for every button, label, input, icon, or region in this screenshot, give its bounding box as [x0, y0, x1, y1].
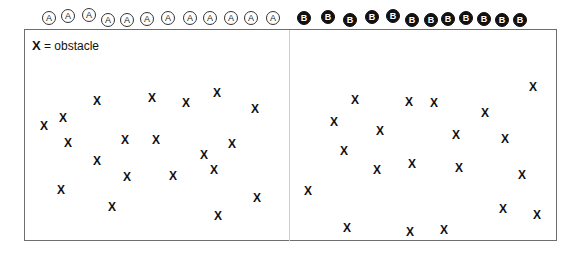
- agent-b-icon: B: [405, 13, 419, 27]
- obstacle-marker: X: [405, 96, 413, 108]
- arena-box: [24, 29, 557, 241]
- obstacle-marker: X: [455, 162, 463, 174]
- obstacle-marker: X: [213, 87, 221, 99]
- obstacle-marker: X: [452, 129, 460, 141]
- agent-a-icon: A: [120, 13, 134, 27]
- agent-a-icon: A: [161, 11, 175, 25]
- agent-a-icon: A: [266, 11, 280, 25]
- agent-a-icon: A: [61, 9, 75, 23]
- obstacle-marker: X: [440, 224, 448, 236]
- agent-a-icon: A: [42, 11, 56, 25]
- agent-b-icon: B: [495, 13, 509, 27]
- agent-a-icon: A: [101, 13, 115, 27]
- obstacle-marker: X: [253, 192, 261, 204]
- obstacle-marker: X: [376, 125, 384, 137]
- obstacle-marker: X: [481, 107, 489, 119]
- legend-symbol: X: [32, 38, 41, 53]
- agent-b-icon: B: [513, 13, 527, 27]
- obstacle-marker: X: [304, 185, 312, 197]
- agent-a-icon: A: [183, 11, 197, 25]
- obstacle-marker: X: [64, 137, 72, 149]
- legend-text: = obstacle: [41, 39, 99, 53]
- obstacle-marker: X: [351, 94, 359, 106]
- agent-b-icon: B: [424, 13, 438, 27]
- obstacle-marker: X: [200, 149, 208, 161]
- agent-a-icon: A: [203, 11, 217, 25]
- obstacle-marker: X: [169, 170, 177, 182]
- obstacle-marker: X: [533, 209, 541, 221]
- obstacle-marker: X: [228, 138, 236, 150]
- obstacle-marker: X: [40, 120, 48, 132]
- obstacle-marker: X: [210, 164, 218, 176]
- obstacle-marker: X: [182, 97, 190, 109]
- arena-divider: [289, 30, 290, 241]
- obstacle-marker: X: [529, 81, 537, 93]
- agent-b-icon: B: [321, 10, 335, 24]
- obstacle-marker: X: [373, 164, 381, 176]
- obstacle-marker: X: [330, 116, 338, 128]
- legend: X = obstacle: [32, 38, 99, 53]
- agent-b-icon: B: [441, 12, 455, 26]
- obstacle-marker: X: [57, 184, 65, 196]
- obstacle-marker: X: [518, 169, 526, 181]
- agent-a-icon: A: [82, 8, 96, 22]
- agent-b-icon: B: [386, 9, 400, 23]
- obstacle-marker: X: [406, 226, 414, 238]
- obstacle-marker: X: [408, 158, 416, 170]
- obstacle-marker: X: [121, 134, 129, 146]
- obstacle-marker: X: [430, 97, 438, 109]
- agent-b-icon: B: [477, 12, 491, 26]
- obstacle-marker: X: [251, 103, 259, 115]
- obstacle-marker: X: [93, 95, 101, 107]
- agent-b-icon: B: [365, 10, 379, 24]
- obstacle-marker: X: [152, 134, 160, 146]
- agent-a-icon: A: [244, 11, 258, 25]
- agent-a-icon: A: [224, 11, 238, 25]
- agent-b-icon: B: [459, 11, 473, 25]
- obstacle-marker: X: [343, 222, 351, 234]
- agent-b-icon: B: [343, 13, 357, 27]
- obstacle-marker: X: [340, 145, 348, 157]
- obstacle-marker: X: [148, 92, 156, 104]
- obstacle-marker: X: [214, 210, 222, 222]
- obstacle-marker: X: [123, 171, 131, 183]
- obstacle-marker: X: [93, 155, 101, 167]
- obstacle-marker: X: [108, 201, 116, 213]
- agent-b-icon: B: [297, 11, 311, 25]
- obstacle-marker: X: [499, 203, 507, 215]
- agent-a-icon: A: [140, 12, 154, 26]
- obstacle-marker: X: [501, 133, 509, 145]
- obstacle-marker: X: [59, 112, 67, 124]
